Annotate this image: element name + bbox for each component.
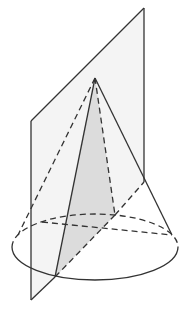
diagram	[0, 0, 186, 315]
cone-diagram	[0, 0, 186, 315]
